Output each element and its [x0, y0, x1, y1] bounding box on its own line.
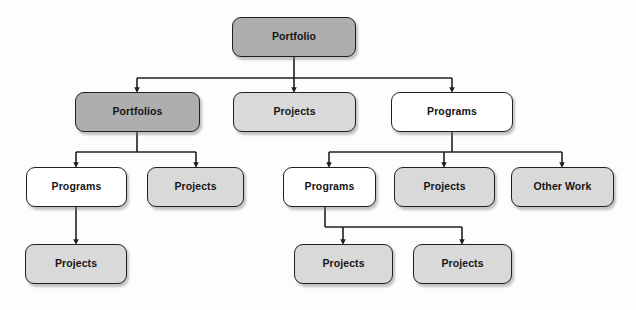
node-label: Other Work — [534, 181, 592, 193]
node-label: Projects — [55, 258, 97, 270]
node-portfolios[interactable]: Portfolios — [75, 92, 200, 132]
node-label: Portfolios — [113, 106, 163, 118]
node-projects-level3-right[interactable]: Projects — [394, 167, 495, 207]
node-label: Programs — [427, 106, 477, 118]
node-label: Projects — [174, 181, 216, 193]
node-programs-level3-right[interactable]: Programs — [283, 167, 376, 207]
node-projects-level2[interactable]: Projects — [233, 92, 356, 132]
node-label: Projects — [273, 106, 315, 118]
node-projects-level3-left[interactable]: Projects — [147, 167, 244, 207]
node-label: Projects — [423, 181, 465, 193]
node-label: Projects — [441, 258, 483, 270]
node-label: Programs — [52, 181, 102, 193]
node-label: Projects — [322, 258, 364, 270]
node-label: Portfolio — [272, 31, 316, 43]
node-other-work[interactable]: Other Work — [511, 167, 614, 207]
node-programs-level3-left[interactable]: Programs — [26, 167, 127, 207]
node-projects-level4-right-a[interactable]: Projects — [294, 244, 393, 284]
node-label: Programs — [305, 181, 355, 193]
node-projects-level4-right-b[interactable]: Projects — [413, 244, 512, 284]
node-portfolio[interactable]: Portfolio — [232, 17, 356, 57]
portfolio-hierarchy-diagram: Portfolio Portfolios Projects Programs P… — [0, 0, 636, 310]
node-programs-level2[interactable]: Programs — [391, 92, 513, 132]
node-projects-level4-left[interactable]: Projects — [25, 244, 127, 284]
